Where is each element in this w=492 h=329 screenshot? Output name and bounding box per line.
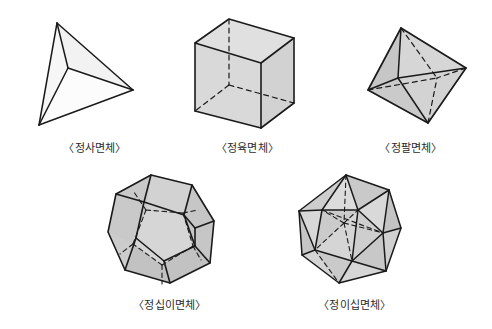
icosahedron-edge-3 <box>299 210 322 211</box>
platonic-solids-diagram: 〈정사면체〉 〈정육면체〉 <box>0 0 492 329</box>
dodecahedron-figure <box>100 166 230 291</box>
dodecahedron-caption: 〈정십이면체〉 <box>75 296 265 312</box>
tetrahedron-figure <box>20 10 170 135</box>
hexahedron-caption: 〈정육면체〉 <box>165 139 330 155</box>
hexahedron-figure <box>182 10 312 135</box>
tetrahedron-caption: 〈정사면체〉 <box>0 139 190 155</box>
icosahedron-figure <box>282 166 422 291</box>
octahedron-figure <box>352 10 492 135</box>
octahedron-caption: 〈정팔면체〉 <box>330 139 492 155</box>
icosahedron-caption: 〈정이십면체〉 <box>255 296 455 312</box>
